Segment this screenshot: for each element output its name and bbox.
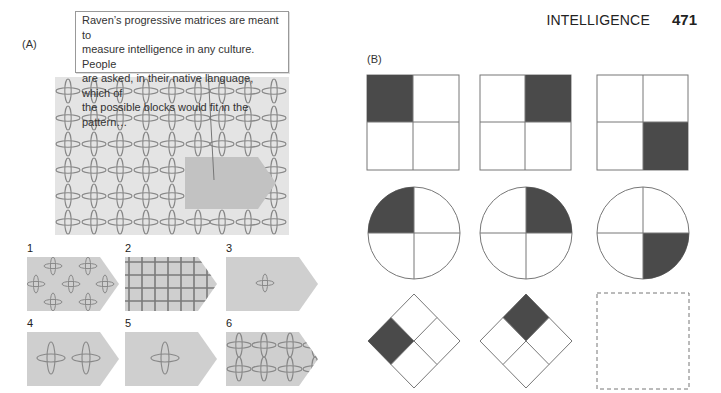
option-2-number: 2 xyxy=(125,242,131,254)
option-5-block xyxy=(125,332,217,386)
caption-line: are asked, in their native language, whi… xyxy=(82,71,282,100)
caption-line: Raven’s progressive matrices are meant t… xyxy=(82,13,282,42)
option-1-number: 1 xyxy=(27,242,33,254)
diamond-left-shaded xyxy=(368,294,460,388)
panel-b-matrix xyxy=(367,75,689,389)
circle-top-right-shaded xyxy=(480,187,572,279)
circle-top-left-shaded xyxy=(368,187,460,279)
caption-line: the possible blocks would fit in the pat… xyxy=(82,100,282,129)
option-4-block xyxy=(27,332,119,386)
missing-cell-dashed xyxy=(597,293,689,389)
caption-line: measure intelligence in any culture. Peo… xyxy=(82,42,282,71)
option-2-block xyxy=(125,257,217,311)
option-1-block xyxy=(27,257,119,311)
option-3-block xyxy=(226,257,318,311)
square-top-left-shaded xyxy=(367,75,459,170)
circle-bottom-right-shaded xyxy=(597,187,689,279)
square-bottom-right-shaded xyxy=(597,75,688,170)
option-4-number: 4 xyxy=(27,317,33,329)
option-5-number: 5 xyxy=(125,317,131,329)
option-3-number: 3 xyxy=(226,242,232,254)
missing-block xyxy=(185,157,276,209)
diamond-top-shaded xyxy=(480,294,572,388)
option-6-number: 6 xyxy=(226,317,232,329)
square-top-right-shaded xyxy=(480,75,571,170)
option-6-block xyxy=(226,332,327,386)
caption-box: Raven’s progressive matrices are meant t… xyxy=(75,11,289,73)
